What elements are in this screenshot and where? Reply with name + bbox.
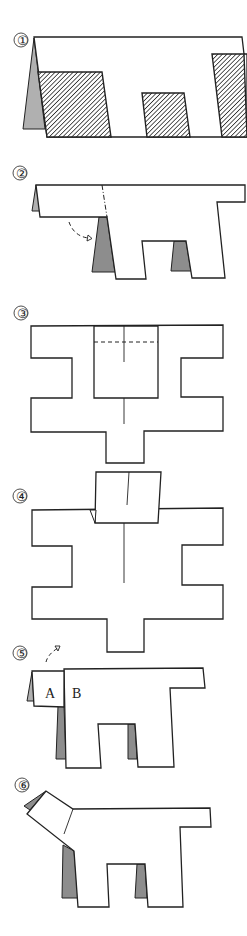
finished-dog <box>27 791 211 907</box>
step-3-number: ③ <box>17 306 29 321</box>
arrowhead-icon <box>55 646 60 651</box>
step-4-number: ④ <box>16 489 28 504</box>
step-5-number: ⑤ <box>16 646 28 661</box>
step-1-number: ① <box>17 33 29 48</box>
fold-arrow-icon <box>69 222 88 238</box>
center-square <box>94 326 158 398</box>
cross-shape <box>32 508 223 652</box>
step-6-number: ⑥ <box>18 778 30 793</box>
step-2: ② <box>13 166 245 280</box>
label-b: B <box>72 686 81 701</box>
step-3: ③ <box>14 306 223 464</box>
dog-body-cut <box>36 185 245 279</box>
cut-region-middle <box>142 93 190 137</box>
folded-top-flap <box>95 472 161 523</box>
step-5: ⑤ A B <box>13 646 205 769</box>
arrowhead-icon <box>87 235 92 241</box>
origami-diagram: ① ② ③ ④ ⑤ <box>0 0 247 936</box>
fold-up-arrow-icon <box>46 648 58 662</box>
label-a: A <box>45 686 56 701</box>
step-6: ⑥ <box>15 778 211 908</box>
step-2-number: ② <box>16 166 28 181</box>
step-4: ④ <box>13 472 223 652</box>
cut-region-front <box>38 72 111 137</box>
step-1: ① <box>14 33 247 138</box>
